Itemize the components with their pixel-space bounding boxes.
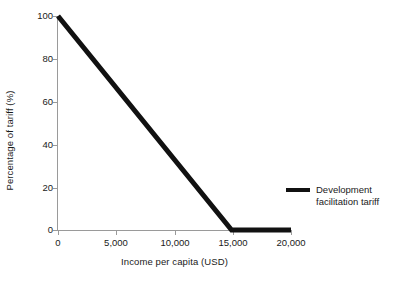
x-axis-title: Income per capita (USD): [58, 256, 291, 267]
series-development-facilitation-tariff: [58, 16, 291, 230]
legend-swatch-development-facilitation-tariff: [286, 188, 310, 192]
chart-figure: Percentage of tariff (%) 100 80 60 40 20…: [0, 0, 394, 281]
legend-label-development-facilitation-tariff: Development facilitation tariff: [316, 184, 379, 208]
series-layer: [0, 0, 394, 281]
chart-legend: Development facilitation tariff: [286, 184, 379, 208]
